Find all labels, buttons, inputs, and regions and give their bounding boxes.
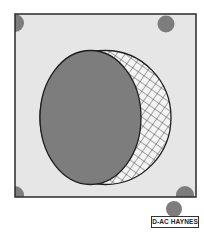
diagram-figure	[0, 0, 204, 239]
dot-bottom-right-lower	[166, 201, 182, 217]
dot-top-right	[158, 16, 175, 33]
dot-bottom-right	[176, 186, 194, 204]
inner-solid-ellipse	[40, 51, 141, 185]
figure-code-label: D-AC HAYNES	[151, 216, 199, 228]
